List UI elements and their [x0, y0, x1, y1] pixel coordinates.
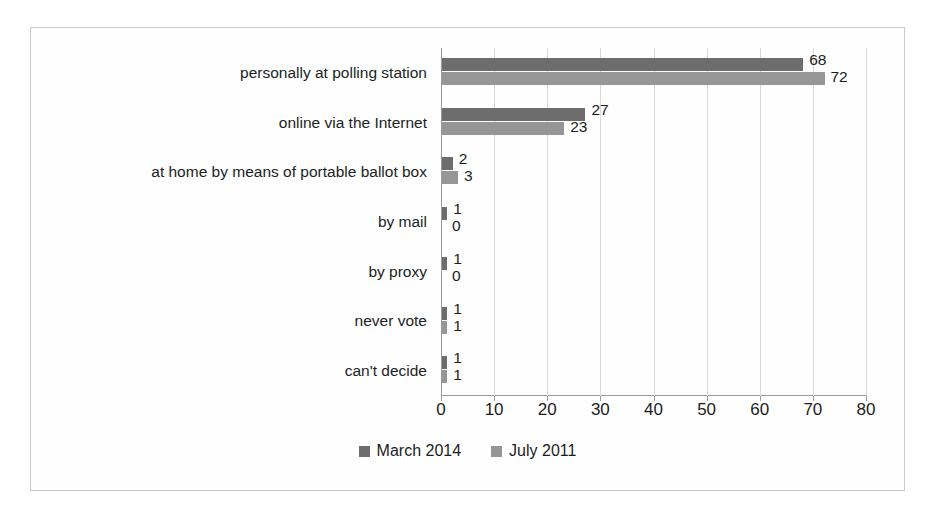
category-label: at home by means of portable ballot box	[151, 163, 427, 181]
bar	[442, 307, 447, 320]
bar	[442, 108, 585, 121]
bar-value-label: 1	[453, 349, 462, 367]
bar-value-label: 2	[459, 150, 468, 168]
bar	[442, 58, 803, 71]
bar-value-label: 3	[464, 167, 473, 185]
gridline	[866, 48, 867, 396]
legend-item[interactable]: July 2011	[491, 442, 576, 460]
legend-swatch-icon	[359, 446, 370, 457]
bar-row: personally at polling station6872	[441, 48, 866, 98]
bar-row: by mail10	[441, 197, 866, 247]
bar-value-label: 1	[453, 200, 462, 218]
bar-row: online via the Internet2723	[441, 98, 866, 148]
x-tick-label: 80	[857, 400, 876, 420]
x-tick-label: 60	[750, 400, 769, 420]
bar-row: can't decide11	[441, 346, 866, 396]
bar	[442, 72, 825, 85]
bar-value-label: 72	[831, 68, 848, 86]
legend-label: July 2011	[509, 442, 576, 460]
bar-value-label: 0	[452, 217, 461, 235]
x-axis-tick-labels: 01020304050607080	[441, 400, 866, 426]
bar-value-label: 1	[453, 300, 462, 318]
x-tick-label: 30	[591, 400, 610, 420]
category-label: online via the Internet	[279, 114, 427, 132]
category-label: can't decide	[345, 362, 427, 380]
legend-item[interactable]: March 2014	[359, 442, 462, 460]
bar	[442, 171, 458, 184]
x-tick-label: 70	[803, 400, 822, 420]
bar-value-label: 27	[591, 101, 608, 119]
x-tick-label: 50	[697, 400, 716, 420]
category-label: personally at polling station	[240, 64, 427, 82]
bar	[442, 257, 447, 270]
bar	[442, 157, 453, 170]
category-label: never vote	[355, 312, 427, 330]
bar-value-label: 1	[453, 317, 462, 335]
bar-row: never vote11	[441, 297, 866, 347]
x-tick-label: 20	[538, 400, 557, 420]
bar	[442, 321, 447, 334]
bar-value-label: 1	[453, 250, 462, 268]
legend-label: March 2014	[377, 442, 462, 460]
chart-legend: March 2014July 2011	[31, 442, 904, 460]
bar-value-label: 0	[452, 267, 461, 285]
category-label: by proxy	[368, 263, 427, 281]
category-label: by mail	[378, 213, 427, 231]
x-tick-label: 10	[485, 400, 504, 420]
bar-row: by proxy10	[441, 247, 866, 297]
bar-value-label: 23	[570, 118, 587, 136]
chart-frame: personally at polling station6872online …	[30, 27, 905, 491]
bar	[442, 122, 564, 135]
legend-swatch-icon	[491, 446, 502, 457]
x-tick-label: 40	[644, 400, 663, 420]
bar	[442, 207, 447, 220]
bar-value-label: 68	[809, 51, 826, 69]
x-tick-label: 0	[436, 400, 445, 420]
bar-row: at home by means of portable ballot box2…	[441, 147, 866, 197]
bar	[442, 356, 447, 369]
bar-value-label: 1	[453, 366, 462, 384]
bar	[442, 370, 447, 383]
plot-area: personally at polling station6872online …	[441, 48, 866, 396]
